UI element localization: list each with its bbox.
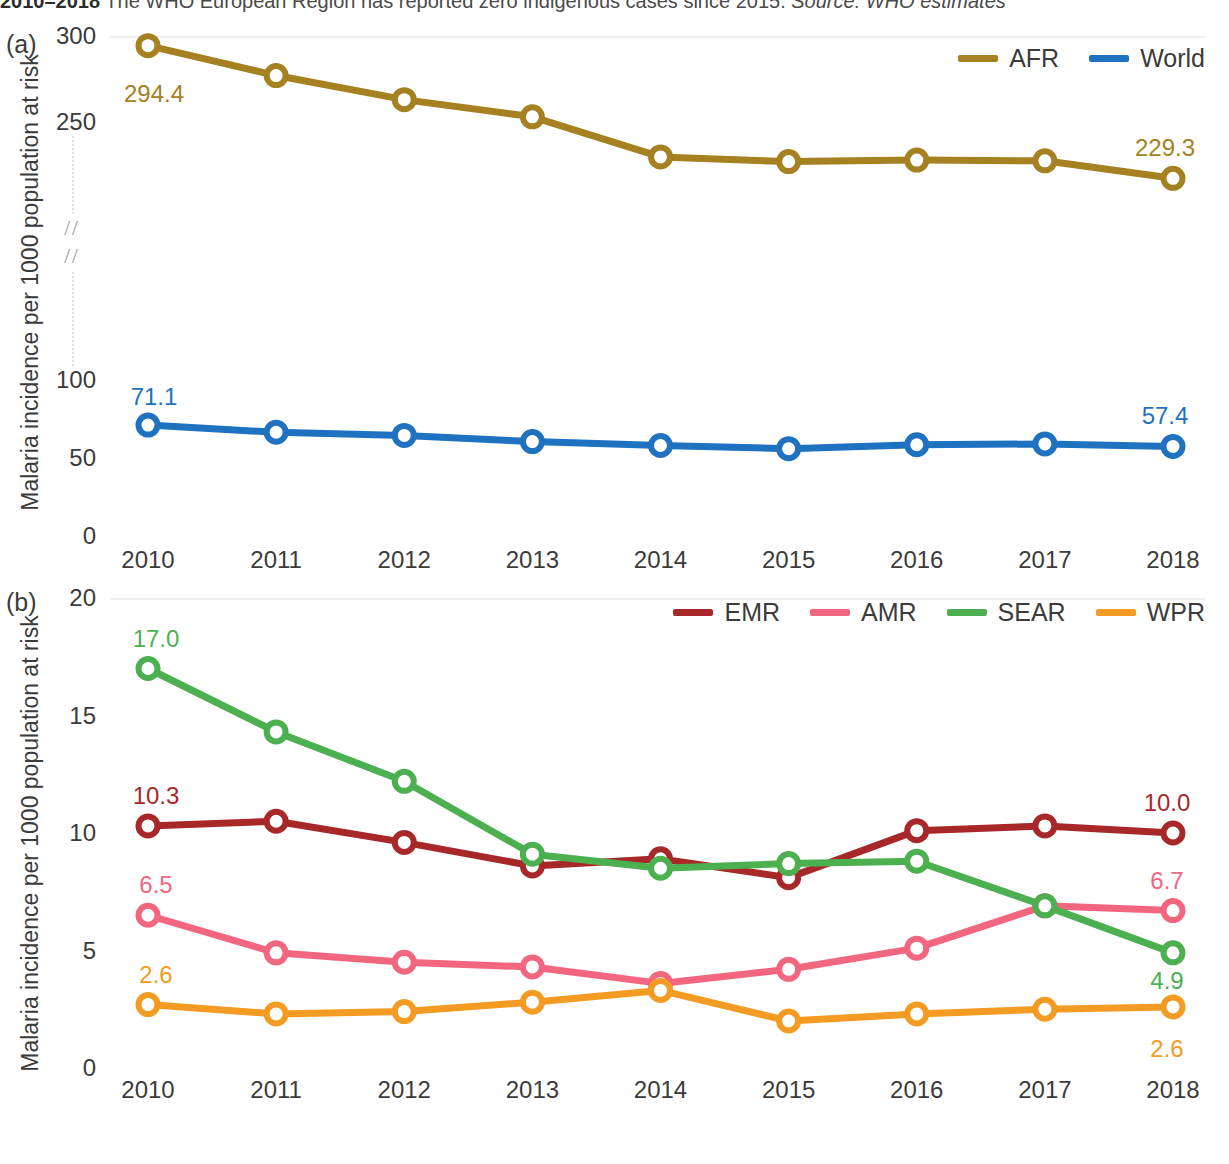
panel-a-axis-break-mark-1: //: [61, 214, 83, 243]
data-point-marker-world[interactable]: [1035, 434, 1054, 453]
panel-b-plot-area: 2015105020102011201220132014201520162017…: [110, 598, 1205, 1068]
data-point-marker-world[interactable]: [1164, 437, 1183, 456]
data-point-marker-amr[interactable]: [1164, 901, 1183, 920]
value-label-afr-left: 294.4: [124, 80, 184, 108]
panel-b-xtick-label: 2011: [250, 1076, 302, 1104]
panel-b-ytick-label: 20: [69, 584, 96, 612]
data-point-marker-afr[interactable]: [1035, 151, 1054, 170]
data-point-marker-amr[interactable]: [395, 953, 414, 972]
panel-a-axis-break-mark-2: //: [61, 241, 83, 270]
data-point-marker-sear[interactable]: [523, 845, 542, 864]
panel-a-ytick-label: 100: [56, 366, 96, 394]
caption-source-value: WHO estimates: [860, 0, 1006, 12]
panel-a-xtick-label: 2013: [506, 546, 559, 574]
data-point-marker-world[interactable]: [395, 426, 414, 445]
caption-text: The WHO European Region has reported zer…: [100, 0, 791, 12]
data-point-marker-world[interactable]: [267, 423, 286, 442]
panel-a-xtick-label: 2012: [378, 546, 431, 574]
panel-a-xtick-label: 2014: [634, 546, 687, 574]
data-point-marker-wpr[interactable]: [1035, 1000, 1054, 1019]
data-point-marker-afr[interactable]: [1164, 169, 1183, 188]
panel-b-xtick-label: 2010: [121, 1076, 174, 1104]
data-point-marker-amr[interactable]: [779, 960, 798, 979]
value-label-amr-right: 6.7: [1150, 867, 1183, 895]
data-point-marker-emr[interactable]: [395, 833, 414, 852]
data-point-marker-amr[interactable]: [907, 939, 926, 958]
data-point-marker-sear[interactable]: [1035, 896, 1054, 915]
data-point-marker-afr[interactable]: [779, 152, 798, 171]
data-point-marker-wpr[interactable]: [139, 995, 158, 1014]
data-point-marker-wpr[interactable]: [523, 993, 542, 1012]
value-label-sear-right: 4.9: [1150, 967, 1183, 995]
figure-caption: 2010–2018 The WHO European Region has re…: [0, 0, 1229, 14]
caption-source-label: Source:: [791, 0, 860, 12]
data-point-marker-amr[interactable]: [523, 957, 542, 976]
data-point-marker-afr[interactable]: [523, 107, 542, 126]
value-label-world-left: 71.1: [131, 383, 178, 411]
data-point-marker-wpr[interactable]: [779, 1012, 798, 1031]
panel-b-xtick-label: 2012: [378, 1076, 431, 1104]
panel-b-ytick-label: 5: [83, 937, 96, 965]
data-point-marker-world[interactable]: [651, 436, 670, 455]
panel-a-plot-area: 3002501005002010201120122013201420152016…: [110, 36, 1205, 536]
value-label-amr-left: 6.5: [139, 871, 172, 899]
data-point-marker-sear[interactable]: [1164, 943, 1183, 962]
panel-a-xtick-label: 2015: [762, 546, 815, 574]
panel-b-xtick-label: 2013: [506, 1076, 559, 1104]
panel-a-ytick-label: 50: [69, 444, 96, 472]
panel-a-y-axis-title: Malaria incidence per 1000 population at…: [17, 48, 44, 518]
panel-a-xtick-label: 2010: [121, 546, 174, 574]
chart-panel-b: (b) Malaria incidence per 1000 populatio…: [0, 580, 1229, 1164]
data-point-marker-amr[interactable]: [139, 906, 158, 925]
value-label-emr-right: 10.0: [1144, 789, 1191, 817]
panel-b-ytick-label: 0: [83, 1054, 96, 1082]
value-label-world-right: 57.4: [1142, 402, 1189, 430]
data-point-marker-afr[interactable]: [907, 151, 926, 170]
data-point-marker-world[interactable]: [523, 432, 542, 451]
panel-b-ytick-label: 10: [69, 819, 96, 847]
panel-a-ytick-label: 0: [83, 522, 96, 550]
data-point-marker-sear[interactable]: [395, 772, 414, 791]
data-point-marker-emr[interactable]: [907, 821, 926, 840]
panel-a-ytick-label: 250: [56, 108, 96, 136]
data-point-marker-emr[interactable]: [1164, 824, 1183, 843]
data-point-marker-sear[interactable]: [139, 659, 158, 678]
data-point-marker-world[interactable]: [907, 435, 926, 454]
value-label-wpr-left: 2.6: [139, 961, 172, 989]
data-point-marker-world[interactable]: [139, 416, 158, 435]
data-point-marker-afr[interactable]: [395, 90, 414, 109]
panel-b-series-layer: [110, 598, 1205, 1068]
panel-a-xtick-label: 2017: [1018, 546, 1071, 574]
data-point-marker-emr[interactable]: [139, 816, 158, 835]
data-point-marker-afr[interactable]: [651, 147, 670, 166]
data-point-marker-emr[interactable]: [267, 812, 286, 831]
data-point-marker-sear[interactable]: [779, 854, 798, 873]
panel-a-xtick-label: 2016: [890, 546, 943, 574]
data-point-marker-wpr[interactable]: [907, 1004, 926, 1023]
data-point-marker-sear[interactable]: [267, 722, 286, 741]
data-point-marker-wpr[interactable]: [651, 981, 670, 1000]
data-point-marker-amr[interactable]: [267, 943, 286, 962]
panel-b-xtick-label: 2014: [634, 1076, 687, 1104]
data-point-marker-wpr[interactable]: [267, 1004, 286, 1023]
series-line-sear: [148, 669, 1173, 953]
panel-b-xtick-label: 2015: [762, 1076, 815, 1104]
panel-b-xtick-label: 2018: [1146, 1076, 1199, 1104]
data-point-marker-emr[interactable]: [1035, 816, 1054, 835]
panel-a-series-layer: [110, 36, 1205, 536]
data-point-marker-afr[interactable]: [139, 36, 158, 55]
panel-b-y-axis-title: Malaria incidence per 1000 population at…: [17, 609, 44, 1079]
panel-a-xtick-label: 2018: [1146, 546, 1199, 574]
data-point-marker-sear[interactable]: [907, 852, 926, 871]
data-point-marker-sear[interactable]: [651, 859, 670, 878]
chart-panel-a: (a) Malaria incidence per 1000 populatio…: [0, 14, 1229, 572]
data-point-marker-afr[interactable]: [267, 66, 286, 85]
value-label-afr-right: 229.3: [1135, 134, 1195, 162]
data-point-marker-wpr[interactable]: [1164, 997, 1183, 1016]
data-point-marker-wpr[interactable]: [395, 1002, 414, 1021]
panel-a-xtick-label: 2011: [250, 546, 302, 574]
data-point-marker-world[interactable]: [779, 439, 798, 458]
panel-b-xtick-label: 2017: [1018, 1076, 1071, 1104]
caption-years: 2010–2018: [0, 0, 100, 12]
value-label-sear-left: 17.0: [133, 625, 180, 653]
